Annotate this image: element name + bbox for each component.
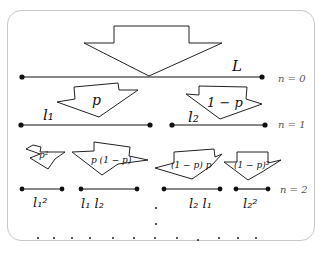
- endpoint: [234, 187, 239, 192]
- endpoint: [169, 122, 174, 127]
- segment-label-l1-squared: l₁²: [33, 195, 48, 210]
- endpoint: [60, 187, 65, 192]
- endpoint: [259, 74, 264, 79]
- arrow-label-1-minus-p-p: (1 − p) p: [171, 160, 212, 170]
- segment-label-l1: l₁: [43, 106, 54, 124]
- level-label-n1: n = 1: [278, 119, 306, 130]
- arrow-label-1-minus-p-squared: (1 − p)²: [234, 160, 270, 170]
- segment-label-L: L: [231, 57, 242, 75]
- arrow-label-p: p: [92, 92, 101, 108]
- endpoint: [262, 122, 267, 127]
- endpoint: [135, 187, 140, 192]
- level-label-n2: n = 2: [280, 184, 308, 195]
- endpoint: [218, 187, 223, 192]
- fragmentation-diagram: p 1 − p p² p (1 − p) (1 − p) p (1 − p)² …: [0, 0, 321, 263]
- endpoint: [266, 187, 271, 192]
- segment-label-l2-squared: l₂²: [243, 196, 258, 211]
- arrow-label-p-1-minus-p: p (1 − p): [91, 155, 132, 165]
- endpoint: [18, 122, 23, 127]
- continuation-dots: [37, 207, 257, 241]
- endpoint: [147, 122, 152, 127]
- arrow-label-1-minus-p: 1 − p: [207, 95, 243, 110]
- endpoint: [162, 187, 167, 192]
- endpoint: [79, 187, 84, 192]
- endpoint: [20, 187, 25, 192]
- arrow-label-p-squared: p²: [39, 150, 49, 160]
- segment-label-l1-l2: l₁ l₂: [81, 196, 104, 211]
- segment-label-l2: l₂: [188, 108, 199, 126]
- level-label-n0: n = 0: [278, 73, 306, 84]
- endpoint: [19, 74, 24, 79]
- segment-label-l2-l1: l₂ l₁: [189, 196, 212, 211]
- arrow-total: [84, 26, 222, 76]
